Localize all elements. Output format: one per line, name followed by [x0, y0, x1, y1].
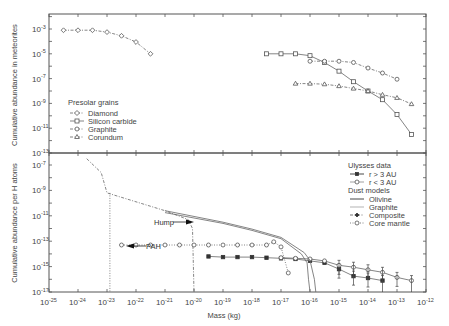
svg-text:10-13: 10-13	[32, 236, 49, 247]
svg-text:10-11: 10-11	[32, 210, 48, 221]
svg-text:10-7: 10-7	[32, 73, 46, 84]
svg-text:10-17: 10-17	[272, 297, 289, 308]
svg-text:10-21: 10-21	[156, 297, 173, 308]
x-axis-title: Mass (kg)	[208, 311, 241, 320]
top-legend: Presolar grains Diamond Silicon carbide …	[68, 98, 137, 142]
svg-text:10-3: 10-3	[32, 24, 46, 35]
svg-text:10-20: 10-20	[185, 297, 202, 308]
svg-text:10-9: 10-9	[32, 98, 46, 109]
series-graphite	[165, 213, 310, 292]
chart-figure: 10-310-510-710-910-1110-1310-710-910-111…	[0, 0, 449, 326]
svg-text:10-17: 10-17	[32, 287, 49, 298]
series-corundum	[293, 81, 414, 105]
svg-text:10-16: 10-16	[301, 297, 318, 308]
svg-text:10-9: 10-9	[32, 185, 46, 196]
svg-text:Corundum: Corundum	[88, 133, 123, 142]
circle-marker-icon	[75, 127, 79, 131]
circle-marker-icon	[355, 221, 359, 225]
svg-text:10-5: 10-5	[32, 48, 46, 59]
top-legend-title: Presolar grains	[68, 98, 119, 107]
square-marker-icon	[75, 119, 79, 123]
series-r-3-au	[279, 256, 414, 292]
filled-square-marker-icon	[356, 173, 359, 176]
diamond-marker-icon	[75, 111, 80, 116]
svg-text:10-13: 10-13	[388, 297, 405, 308]
bottom-panel-series	[87, 159, 414, 292]
legend-item-corundum: Corundum	[70, 133, 123, 142]
svg-text:10-14: 10-14	[359, 297, 376, 308]
svg-text:10-15: 10-15	[330, 297, 347, 308]
pah-annotation: PAH	[126, 242, 161, 251]
svg-text:10-19: 10-19	[214, 297, 231, 308]
arrow-left-icon	[126, 244, 134, 249]
svg-text:Core mantle: Core mantle	[369, 219, 410, 228]
svg-text:10-13: 10-13	[32, 148, 49, 159]
bottom-y-axis-title: Cumulative abundance per H atoms	[10, 163, 19, 283]
svg-text:10-23: 10-23	[98, 297, 115, 308]
svg-text:10-24: 10-24	[69, 297, 86, 308]
circle-marker-icon	[355, 180, 359, 184]
svg-text:10-25: 10-25	[40, 297, 57, 308]
dust-models-legend-title: Dust models	[348, 186, 390, 195]
svg-text:10-15: 10-15	[32, 261, 49, 272]
bottom-legend: Ulysses data r > 3 AU r < 3 AU Dust mode…	[348, 161, 410, 228]
svg-text:10-7: 10-7	[32, 160, 46, 171]
triangle-marker-icon	[75, 135, 80, 139]
series-silicon-carbide	[265, 52, 414, 137]
series-diamond	[61, 28, 153, 56]
top-y-axis-title: Cumulative abundance in meteorites	[10, 24, 19, 146]
diamond-marker-icon	[355, 213, 359, 217]
series-graphite	[308, 59, 399, 81]
svg-text:10-18: 10-18	[243, 297, 260, 308]
svg-text:10-22: 10-22	[127, 297, 144, 308]
plot-frames	[49, 14, 426, 292]
pah-label: PAH	[146, 242, 161, 251]
hump-label: Hump	[154, 218, 174, 227]
series-composite	[87, 159, 194, 292]
ulysses-legend-title: Ulysses data	[348, 161, 392, 170]
svg-text:10-11: 10-11	[32, 123, 48, 134]
svg-text:10-12: 10-12	[417, 297, 434, 308]
legend-item-core-mantle: Core mantle	[350, 219, 410, 228]
